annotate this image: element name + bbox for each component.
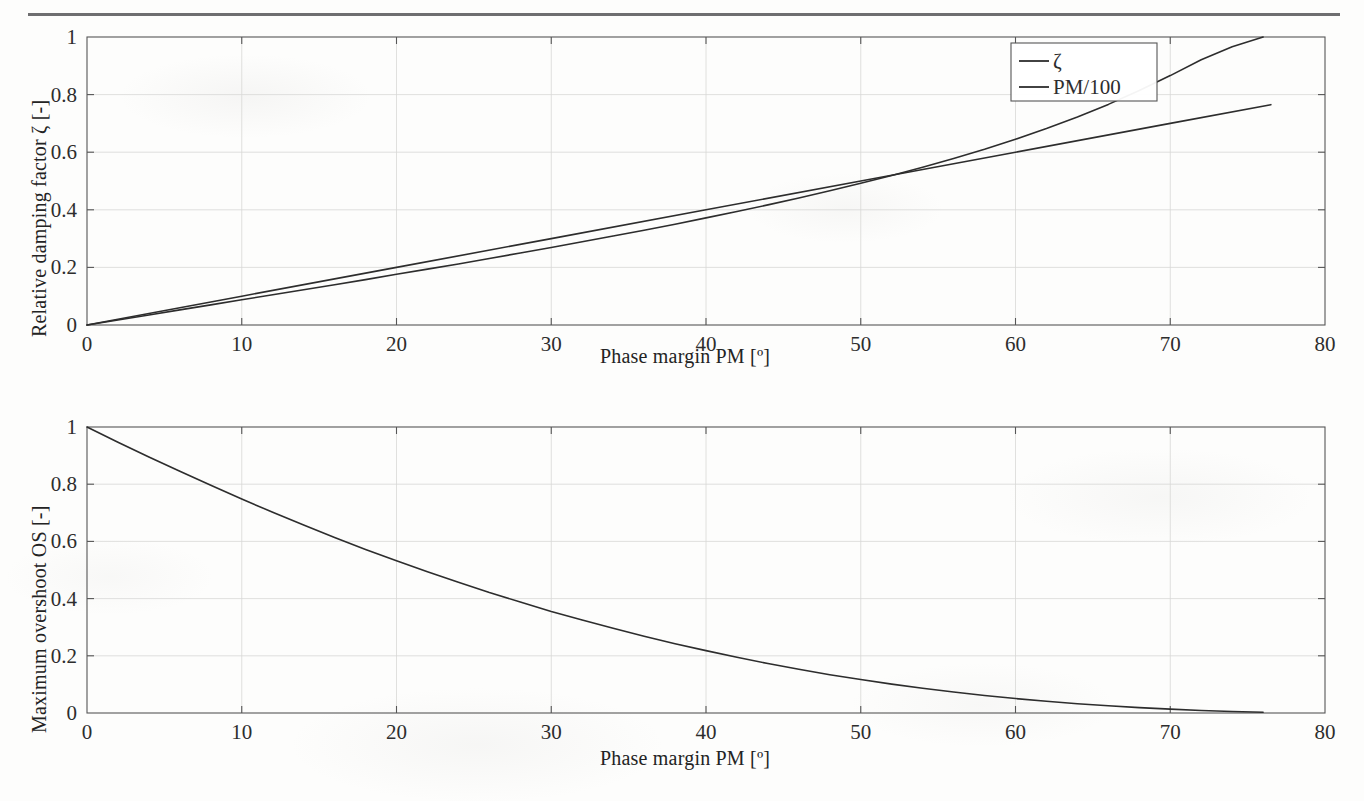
chart-top-ylabel: Relative damping factor ζ [-] [28,100,51,337]
tick-label-x: 0 [82,332,93,356]
legend-label-1: PM/100 [1053,75,1121,99]
chart-bottom-canvas: 0102030405060708000.20.40.60.81 [0,410,1364,790]
tick-label-x: 30 [541,332,562,356]
tick-label-x: 20 [386,332,407,356]
tick-label-x: 70 [1160,720,1181,744]
tick-label-x: 50 [850,332,871,356]
grid-lines [87,427,1325,713]
chart-top-xlabel: Phase margin PM [º] [600,345,770,368]
tick-label-y: 0 [67,313,78,337]
chart-bottom-ylabel: Maximum overshoot OS [-] [28,505,51,733]
tick-label-y: 0.2 [51,644,77,668]
tick-label-y: 1 [67,25,78,49]
tick-label-x: 80 [1315,720,1336,744]
tick-label-x: 10 [231,332,252,356]
series-line-1 [87,105,1271,325]
tick-label-x: 80 [1315,332,1336,356]
chart-bottom-xlabel: Phase margin PM [º] [600,747,770,770]
header-rule [28,13,1340,16]
tick-label-x: 50 [850,720,871,744]
tick-label-y: 0.8 [51,83,77,107]
tick-label-y: 0 [67,701,78,725]
tick-label-y: 0.4 [51,198,78,222]
tick-label-y: 0.4 [51,587,78,611]
chart-top-canvas: 0102030405060708000.20.40.60.81ζPM/100 [0,20,1364,380]
tick-label-x: 10 [231,720,252,744]
tick-label-x: 30 [541,720,562,744]
tick-label-y: 0.6 [51,140,77,164]
tick-label-y: 0.2 [51,255,77,279]
tick-label-x: 70 [1160,332,1181,356]
tick-label-x: 60 [1005,720,1026,744]
chart-top: 0102030405060708000.20.40.60.81ζPM/100 P… [0,20,1364,380]
tick-label-y: 0.8 [51,472,77,496]
tick-label-x: 20 [386,720,407,744]
svg-top-group: 0102030405060708000.20.40.60.81ζPM/100 [51,25,1336,356]
tick-label-y: 0.6 [51,529,77,553]
tick-label-y: 1 [67,415,78,439]
tick-label-x: 0 [82,720,93,744]
series-line-0 [87,427,1263,712]
chart-bottom: 0102030405060708000.20.40.60.81 Phase ma… [0,410,1364,790]
tick-label-x: 60 [1005,332,1026,356]
figure-page: 0102030405060708000.20.40.60.81ζPM/100 P… [0,0,1364,801]
tick-label-x: 40 [696,720,717,744]
svg-bottom-group: 0102030405060708000.20.40.60.81 [51,415,1336,744]
tick-marks: 0102030405060708000.20.40.60.81 [51,415,1336,744]
legend: ζPM/100 [1011,43,1157,101]
legend-label-0: ζ [1053,49,1062,73]
